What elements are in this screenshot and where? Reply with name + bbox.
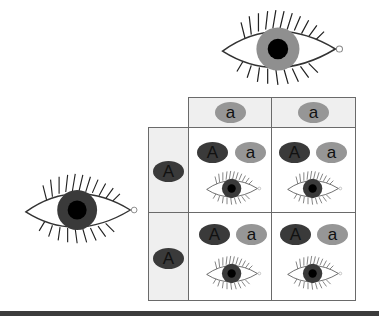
allele-dominant: A: [199, 224, 230, 245]
offspring-cell-1-2: A a: [271, 127, 356, 213]
offspring-cell-1-1: A a: [188, 127, 272, 213]
column-header-1: a: [188, 97, 272, 128]
parent-eye-top: [214, 8, 348, 90]
offspring-eye: [203, 255, 263, 292]
row-header-1: A: [148, 127, 189, 213]
allele-dominant: A: [279, 142, 310, 163]
allele-dominant: A: [197, 142, 228, 163]
parent-eye-left: [18, 172, 142, 248]
offspring-eye: [284, 255, 344, 292]
allele-recessive: a: [235, 142, 266, 163]
punnett-square: a a A A A a A a A a A a: [148, 97, 356, 301]
allele-dominant: A: [280, 224, 311, 245]
bottom-bar: [0, 311, 379, 316]
column-header-2: a: [271, 97, 356, 128]
offspring-eye: [284, 170, 344, 207]
allele-recessive: a: [317, 224, 348, 245]
allele-dominant: A: [153, 248, 184, 269]
offspring-cell-2-2: A a: [271, 212, 356, 301]
allele-recessive: a: [298, 102, 329, 123]
offspring-cell-2-1: A a: [188, 212, 272, 301]
offspring-eye: [203, 170, 263, 207]
row-header-2: A: [148, 212, 189, 301]
allele-recessive: a: [316, 142, 347, 163]
allele-dominant: A: [153, 161, 184, 182]
allele-recessive: a: [236, 224, 267, 245]
allele-recessive: a: [215, 102, 246, 123]
